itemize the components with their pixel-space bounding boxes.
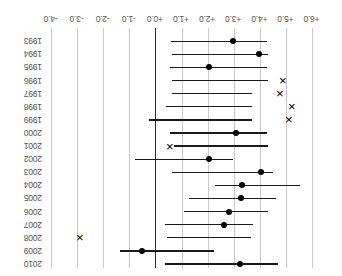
x-gridline xyxy=(286,28,287,268)
estimate-dot-marker xyxy=(237,261,243,267)
x-axis-tick-label: -4.0 xyxy=(39,14,63,24)
confidence-interval-line xyxy=(172,54,269,55)
confidence-interval-line xyxy=(170,67,267,68)
x-axis-tick-label: +2.0 xyxy=(195,14,219,24)
category-year-label: 1995 xyxy=(24,63,42,73)
confidence-interval-line xyxy=(215,185,300,186)
category-year-label: 1994 xyxy=(24,49,42,59)
category-year-label: 2009 xyxy=(24,246,42,256)
x-axis-tick-label: +3.0 xyxy=(221,14,245,24)
confidence-interval-line xyxy=(166,106,252,107)
confidence-interval-line xyxy=(165,263,278,264)
estimate-cross-marker xyxy=(284,115,293,124)
confidence-interval-line xyxy=(171,41,267,42)
x-axis-tick-label: +6.0 xyxy=(300,14,324,24)
forest-plot-figure: +6.0+5.0+4.0+3.0+2.0+1.0+0.0-1.0-2.0-3.0… xyxy=(0,0,342,276)
x-axis-tick-label: -1.0 xyxy=(117,14,141,24)
estimate-dot-marker xyxy=(139,248,145,254)
category-year-label: 1998 xyxy=(24,102,42,112)
category-year-label: 1999 xyxy=(24,115,42,125)
confidence-interval-line xyxy=(170,132,267,133)
category-year-label: 2000 xyxy=(24,128,42,138)
category-year-label: 2002 xyxy=(24,154,42,164)
confidence-interval-line xyxy=(120,250,214,251)
category-year-label: 2005 xyxy=(24,194,42,204)
category-year-label: 2001 xyxy=(24,141,42,151)
category-year-label: 2006 xyxy=(24,207,42,217)
estimate-dot-marker xyxy=(206,65,212,71)
confidence-interval-line xyxy=(172,93,252,94)
x-axis-tick-label: +1.0 xyxy=(169,14,193,24)
category-year-label: 2007 xyxy=(24,220,42,230)
x-gridline xyxy=(129,28,130,268)
plot-area: +6.0+5.0+4.0+3.0+2.0+1.0+0.0-1.0-2.0-3.0… xyxy=(0,0,342,276)
estimate-cross-marker xyxy=(275,89,284,98)
confidence-interval-line xyxy=(172,80,268,81)
estimate-cross-marker xyxy=(165,142,174,151)
x-gridline xyxy=(312,28,313,268)
confidence-interval-line xyxy=(135,159,233,160)
zero-reference-line xyxy=(156,28,157,268)
estimate-cross-marker xyxy=(279,76,288,85)
confidence-interval-line xyxy=(167,237,251,238)
confidence-interval-line xyxy=(165,224,253,225)
confidence-interval-line xyxy=(189,198,276,199)
estimate-dot-marker xyxy=(256,51,262,57)
confidence-interval-line xyxy=(149,119,253,120)
estimate-dot-marker xyxy=(221,222,227,228)
x-axis-tick-label: +5.0 xyxy=(274,14,298,24)
x-axis-tick-label: -2.0 xyxy=(91,14,115,24)
estimate-dot-marker xyxy=(233,130,239,136)
category-year-label: 2003 xyxy=(24,167,42,177)
x-gridline xyxy=(260,28,261,268)
category-year-label: 2008 xyxy=(24,233,42,243)
x-gridline xyxy=(182,28,183,268)
estimate-dot-marker xyxy=(230,38,236,44)
estimate-cross-marker xyxy=(75,233,84,242)
x-gridline xyxy=(103,28,104,268)
category-year-label: 2010 xyxy=(24,259,42,269)
category-year-label: 1997 xyxy=(24,89,42,99)
category-year-label: 1996 xyxy=(24,76,42,86)
estimate-dot-marker xyxy=(226,209,232,215)
estimate-dot-marker xyxy=(239,182,245,188)
estimate-dot-marker xyxy=(238,196,244,202)
category-year-label: 2004 xyxy=(24,180,42,190)
x-gridline xyxy=(51,28,52,268)
estimate-dot-marker xyxy=(258,169,264,175)
confidence-interval-line xyxy=(174,145,268,146)
x-axis-tick-label: +4.0 xyxy=(247,14,271,24)
estimate-cross-marker xyxy=(288,102,297,111)
x-axis-tick-label: +0.0 xyxy=(143,14,167,24)
estimate-dot-marker xyxy=(206,156,212,162)
x-gridline xyxy=(234,28,235,268)
category-year-label: 1993 xyxy=(24,36,42,46)
x-axis-tick-label: -3.0 xyxy=(65,14,89,24)
